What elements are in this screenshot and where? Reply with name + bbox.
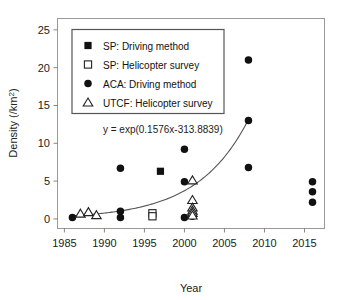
x-tick-label: 1985 [52, 237, 76, 249]
equation-annotation: y = exp(0.1576x-313.8839) [103, 124, 223, 135]
x-axis-title: Year [180, 282, 203, 294]
series-sp_helicopter [149, 210, 156, 220]
y-tick-label: 15 [38, 99, 50, 111]
data-point-aca_driving [245, 56, 252, 63]
data-point-aca_driving [309, 199, 316, 206]
data-point-aca_driving [181, 146, 188, 153]
y-tick-label: 10 [38, 137, 50, 149]
series-sp_driving [157, 168, 164, 175]
data-point-aca_driving [117, 165, 124, 172]
x-tick-label: 2015 [292, 237, 316, 249]
y-axis-title: Density (/km2) [7, 88, 20, 157]
legend-marker [84, 42, 91, 49]
chart-canvas: 0510152025 1985199019952000200520102015 … [0, 0, 346, 300]
y-tick-label: 20 [38, 62, 50, 74]
y-tick-label: 5 [44, 175, 50, 187]
data-point-aca_driving [309, 188, 316, 195]
legend-marker [84, 80, 91, 87]
y-tick-label: 0 [44, 213, 50, 225]
fit-equation-label: y = exp(0.1576x-313.8839) [103, 124, 223, 135]
data-point-aca_driving [181, 214, 188, 221]
data-point-aca_driving [309, 178, 316, 185]
legend-item-label: SP: Helicopter survey [103, 60, 199, 71]
x-tick-label: 2005 [212, 237, 236, 249]
legend-item-label: UTCF: Helicopter survey [103, 98, 212, 109]
y-axis-ticks: 0510152025 [38, 24, 58, 225]
data-point-aca_driving [117, 214, 124, 221]
scatter-chart-figure: 0510152025 1985199019952000200520102015 … [0, 0, 346, 300]
x-tick-label: 2000 [172, 237, 196, 249]
data-point-utcf_helicopter [188, 176, 198, 184]
legend-item: UTCF: Helicopter survey [83, 98, 212, 109]
x-tick-label: 2010 [252, 237, 276, 249]
x-axis-ticks: 1985199019952000200520102015 [52, 228, 317, 249]
series-utcf_helicopter [76, 176, 198, 219]
x-tick-label: 1995 [132, 237, 156, 249]
data-point-aca_driving [181, 178, 188, 185]
data-point-sp_helicopter [149, 213, 156, 220]
y-tick-label: 25 [38, 24, 50, 36]
data-point-sp_driving [157, 168, 164, 175]
data-point-aca_driving [245, 164, 252, 171]
data-point-aca_driving [245, 117, 252, 124]
chart-legend: SP: Driving methodSP: Helicopter surveyA… [72, 30, 224, 114]
legend-marker [84, 61, 91, 68]
data-point-utcf_helicopter [84, 208, 94, 216]
legend-item-label: SP: Driving method [103, 41, 189, 52]
legend-item-label: ACA: Driving method [103, 79, 196, 90]
x-tick-label: 1990 [92, 237, 116, 249]
